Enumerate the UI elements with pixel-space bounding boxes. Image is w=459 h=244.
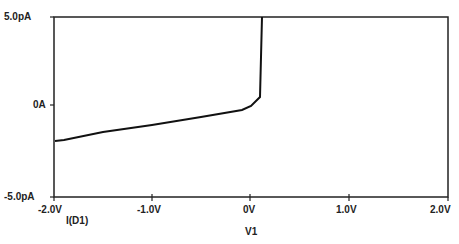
y-tick-label: 5.0pA [4,11,31,22]
x-tick-label: 1.0V [336,204,357,215]
x-axis-label: V1 [245,226,257,237]
y-tick-label: 0A [33,99,46,110]
plot-area [0,0,459,244]
x-tick-label: -1.0V [137,204,161,215]
x-tick-label: 0V [243,204,255,215]
x-tick-label: 2.0V [430,204,451,215]
x-tick-label: -2.0V [38,204,62,215]
y-tick-label: -5.0pA [4,191,35,202]
trace-i-d1 [55,17,262,141]
trace-legend-label: I(D1) [66,215,88,226]
